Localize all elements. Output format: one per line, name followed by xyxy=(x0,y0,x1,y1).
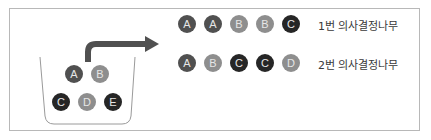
basket-ball-a: A xyxy=(65,65,83,83)
sample1-label: 1번 의사결정나무 xyxy=(318,17,399,33)
basket-ball-c: C xyxy=(52,93,70,111)
basket-ball-e: E xyxy=(104,93,122,111)
sample2-label: 2번 의사결정나무 xyxy=(318,56,399,72)
sample1-ball: A xyxy=(178,15,196,33)
sample2-ball: D xyxy=(282,54,300,72)
sample2-ball: A xyxy=(178,54,196,72)
sample2-ball: C xyxy=(230,54,248,72)
sample1-ball: A xyxy=(204,15,222,33)
sample1-ball: C xyxy=(282,15,300,33)
sample2-ball: C xyxy=(256,54,274,72)
sample1-ball: B xyxy=(256,15,274,33)
sample2-ball: B xyxy=(204,54,222,72)
basket-ball-b: B xyxy=(91,65,109,83)
sample1-ball: B xyxy=(230,15,248,33)
basket-ball-d: D xyxy=(78,93,96,111)
